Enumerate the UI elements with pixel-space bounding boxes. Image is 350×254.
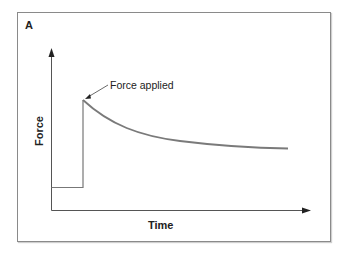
y-axis-arrow-icon <box>49 48 55 57</box>
annotation-pointer <box>88 85 108 97</box>
annotation-arrow-icon <box>85 94 91 99</box>
force-time-diagram <box>0 0 350 254</box>
force-decay-curve <box>83 100 288 149</box>
x-axis-arrow-icon <box>302 208 311 214</box>
force-step <box>52 100 84 188</box>
